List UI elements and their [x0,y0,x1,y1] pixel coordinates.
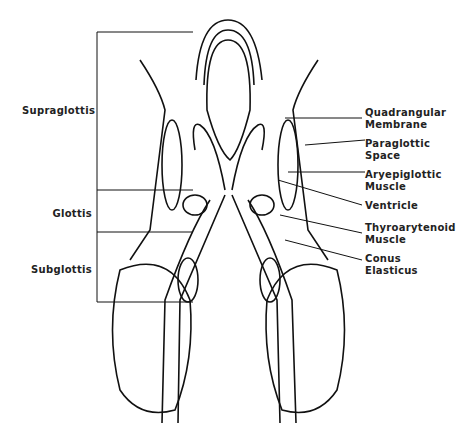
structure-label-ventricle: Ventricle [365,200,418,212]
label-line: Ventricle [365,200,418,212]
label-line: Paraglottic [365,138,430,150]
label-line: Space [365,150,430,162]
label-line: Aryepiglottic [365,169,442,181]
structure-label-paraglottic-space: Paraglottic Space [365,138,430,162]
label-line: Conus [365,253,418,265]
label-line: Quadrangular [365,107,446,119]
structure-label-conus-elasticus: Conus Elasticus [365,253,418,277]
structure-label-aryepiglottic-muscle: Aryepiglottic Muscle [365,169,442,193]
label-line: Elasticus [365,265,418,277]
label-line: Thyroarytenoid [365,222,456,234]
structure-label-quadrangular-membrane: Quadrangular Membrane [365,107,446,131]
structure-label-thyroarytenoid-muscle: Thyroarytenoid Muscle [365,222,456,246]
region-label-glottis: Glottis [22,208,92,220]
region-label-supraglottis: Supraglottis [22,105,92,117]
label-line: Muscle [365,234,456,246]
label-line: Muscle [365,181,442,193]
region-label-subglottis: Subglottis [22,264,92,276]
label-line: Membrane [365,119,446,131]
